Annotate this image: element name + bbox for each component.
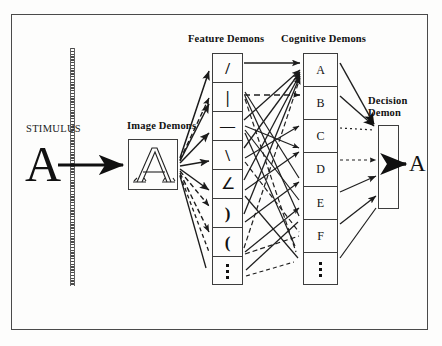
cognitive-demon-e-glyph: E (317, 197, 324, 209)
cognitive-demon-f-glyph: F (317, 230, 324, 242)
acute-angle-feature[interactable]: ∠ (213, 170, 242, 199)
vertical-line-feature[interactable]: | (213, 83, 242, 112)
feature-demons-label: Feature Demons (188, 33, 264, 44)
vertical-line-feature-glyph: | (226, 89, 230, 106)
hatched-vertical-divider (70, 48, 75, 286)
cognitive-demon-b-glyph: B (316, 97, 324, 109)
forward-slash-feature[interactable]: / (213, 54, 242, 83)
cognitive-demon-e[interactable]: E (304, 187, 337, 220)
horizontal-line-feature-glyph: — (220, 119, 235, 134)
cognitive-demons-label: Cognitive Demons (281, 33, 366, 44)
cognitive-demon-b[interactable]: B (304, 87, 337, 120)
feature-demons-column: /|—\∠)( (212, 53, 243, 285)
image-demons-label: Image Demons (127, 120, 196, 131)
left-curve-feature[interactable]: ( (213, 228, 242, 257)
cognitive-demon-a-glyph: A (316, 64, 325, 76)
back-slash-feature[interactable]: \ (213, 141, 242, 170)
cognitive-demon-d-glyph: D (316, 163, 325, 175)
feature-vertical-ellipsis-icon (226, 264, 229, 279)
cognitive-demon-c[interactable]: C (304, 120, 337, 153)
forward-slash-feature-glyph: / (225, 60, 230, 77)
figure-canvas: STIMULUS Image Demons Feature Demons Cog… (0, 0, 442, 346)
left-curve-feature-glyph: ( (225, 234, 231, 251)
acute-angle-feature-glyph: ∠ (221, 176, 235, 192)
cognitive-demon-d[interactable]: D (304, 153, 337, 186)
cognitive-vertical-ellipsis-icon (319, 262, 322, 277)
image-demons-box (128, 139, 178, 190)
stimulus-letter: A (25, 139, 61, 189)
stimulus-label: STIMULUS (26, 123, 81, 134)
cognitive-demons-column: ABCDEF (303, 53, 338, 285)
back-slash-feature-glyph: \ (225, 147, 230, 164)
decision-demon-label-line2: Demon (368, 107, 401, 118)
cognitive-demon-f[interactable]: F (304, 220, 337, 253)
decision-demon-label: Decision Demon (368, 95, 408, 118)
cognitive-demon-a[interactable]: A (304, 54, 337, 87)
response-letter: A (409, 152, 426, 175)
horizontal-line-feature[interactable]: — (213, 112, 242, 141)
right-curve-feature[interactable]: ) (213, 199, 242, 228)
cognitive-demon-c-glyph: C (316, 130, 324, 142)
cognitive-demon-ellipsis[interactable] (304, 253, 337, 286)
decision-demon-box (378, 125, 399, 209)
ellipsis-feature[interactable] (213, 257, 242, 286)
right-curve-feature-glyph: ) (225, 205, 231, 222)
decision-demon-label-line1: Decision (368, 95, 408, 106)
